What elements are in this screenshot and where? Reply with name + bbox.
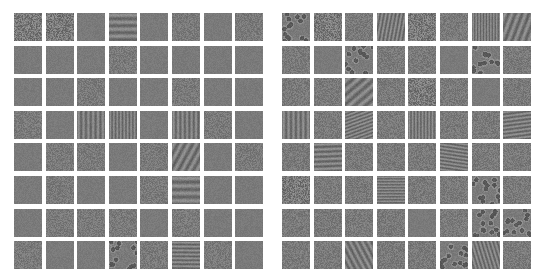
filter-tile — [204, 241, 232, 269]
filter-tile — [14, 209, 42, 237]
filter-tile — [345, 46, 373, 74]
filter-tile — [503, 241, 531, 269]
filter-tile — [503, 176, 531, 204]
filter-tile — [345, 78, 373, 106]
filter-tile — [314, 209, 342, 237]
filter-tile — [46, 46, 74, 74]
filter-tile — [314, 111, 342, 139]
filter-tile — [408, 13, 436, 41]
filter-tile — [77, 78, 105, 106]
filter-tile — [408, 176, 436, 204]
filter-tile — [314, 143, 342, 171]
filter-tile — [77, 13, 105, 41]
filter-tile — [204, 209, 232, 237]
filter-tile — [345, 111, 373, 139]
filter-tile — [282, 209, 310, 237]
filter-tile — [440, 13, 468, 41]
filter-tile — [503, 209, 531, 237]
filter-tile — [472, 78, 500, 106]
filter-tile — [77, 209, 105, 237]
filter-tile — [172, 111, 200, 139]
filter-tile — [314, 13, 342, 41]
filter-tile — [235, 241, 263, 269]
filter-tile — [140, 209, 168, 237]
filter-tile — [14, 78, 42, 106]
filter-tile — [235, 78, 263, 106]
filter-tile — [314, 78, 342, 106]
filter-tile — [377, 209, 405, 237]
filter-tile — [282, 176, 310, 204]
filter-tile — [140, 143, 168, 171]
filter-tile — [314, 241, 342, 269]
filter-tile — [377, 143, 405, 171]
filter-tile — [282, 13, 310, 41]
filter-tile — [377, 13, 405, 41]
filter-tile — [46, 209, 74, 237]
filter-tile — [440, 241, 468, 269]
filter-tile — [140, 78, 168, 106]
filter-tile — [440, 176, 468, 204]
filter-tile — [314, 176, 342, 204]
filter-tile — [77, 143, 105, 171]
filter-tile — [235, 143, 263, 171]
filter-tile — [503, 143, 531, 171]
filter-tile — [14, 111, 42, 139]
filter-tile — [14, 46, 42, 74]
filter-tile — [345, 143, 373, 171]
filter-tile — [472, 241, 500, 269]
left-filter-grid — [14, 13, 263, 269]
right-filter-grid — [282, 13, 531, 269]
filter-tile — [14, 241, 42, 269]
filter-tile — [503, 13, 531, 41]
filter-tile — [345, 176, 373, 204]
filter-tile — [503, 111, 531, 139]
filter-tile — [472, 111, 500, 139]
filter-tile — [440, 111, 468, 139]
filter-tile — [46, 176, 74, 204]
filter-tile — [235, 176, 263, 204]
filter-tile — [282, 143, 310, 171]
filter-tile — [77, 46, 105, 74]
filter-tile — [503, 46, 531, 74]
filter-tile — [472, 176, 500, 204]
filter-tile — [77, 176, 105, 204]
filter-tile — [77, 241, 105, 269]
filter-tile — [140, 13, 168, 41]
filter-tile — [377, 176, 405, 204]
filter-tile — [377, 111, 405, 139]
filter-tile — [46, 13, 74, 41]
filter-tile — [140, 241, 168, 269]
filter-tile — [377, 241, 405, 269]
filter-tile — [235, 209, 263, 237]
filter-tile — [204, 13, 232, 41]
filter-tile — [282, 78, 310, 106]
filter-tile — [472, 143, 500, 171]
filter-tile — [408, 241, 436, 269]
filter-tile — [204, 143, 232, 171]
filter-tile — [140, 111, 168, 139]
filter-tile — [14, 176, 42, 204]
filter-tile — [408, 78, 436, 106]
filter-tile — [345, 13, 373, 41]
filter-tile — [172, 143, 200, 171]
filter-tile — [172, 78, 200, 106]
filter-tile — [172, 13, 200, 41]
filter-tile — [109, 143, 137, 171]
filter-tile — [204, 111, 232, 139]
filter-tile — [204, 176, 232, 204]
filter-tile — [172, 241, 200, 269]
filter-tile — [282, 111, 310, 139]
filter-tile — [440, 46, 468, 74]
filter-tile — [46, 111, 74, 139]
filter-tile — [377, 78, 405, 106]
filter-tile — [46, 78, 74, 106]
filter-tile — [377, 46, 405, 74]
filter-tile — [46, 241, 74, 269]
filter-tile — [140, 176, 168, 204]
filter-tile — [235, 46, 263, 74]
filter-tile — [408, 46, 436, 74]
filter-tile — [172, 46, 200, 74]
filter-tile — [472, 46, 500, 74]
filter-tile — [408, 111, 436, 139]
filter-tile — [140, 46, 168, 74]
